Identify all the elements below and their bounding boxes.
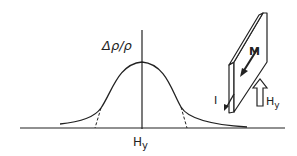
- slab-side-face: [229, 62, 234, 113]
- x-axis-label: Hy: [133, 135, 148, 151]
- magnetoresistance-diagram: Δρ/ρ Hy M I Hy: [0, 0, 297, 156]
- field-arrow-icon: [253, 79, 267, 106]
- magnetization-label: M: [249, 45, 260, 58]
- y-axis-label: Δρ/ρ: [101, 38, 133, 53]
- resistance-curve: [60, 62, 247, 127]
- field-label: Hy: [266, 95, 280, 110]
- current-label: I: [214, 94, 217, 107]
